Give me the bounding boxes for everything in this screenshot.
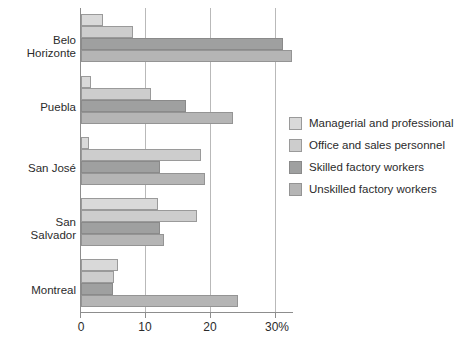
legend-item-managerial: Managerial and professional — [289, 112, 453, 134]
legend-label: Managerial and professional — [309, 117, 453, 129]
x-tick-mark-0 — [80, 313, 81, 318]
legend-item-office-sales: Office and sales personnel — [289, 134, 453, 156]
bar — [81, 26, 133, 38]
x-axis-line — [80, 312, 293, 313]
bar — [81, 112, 233, 124]
bar — [81, 88, 151, 100]
bar — [81, 149, 201, 161]
y-axis-label-san-salvador: San Salvador — [31, 216, 76, 241]
bar — [81, 76, 91, 88]
legend: Managerial and professional Office and s… — [289, 112, 453, 200]
y-axis-label-belo-horizonte: Belo Horizonte — [27, 34, 76, 59]
bar — [81, 295, 238, 307]
x-tick-label-30: 30% — [265, 320, 289, 334]
bar — [81, 161, 160, 173]
legend-swatch-icon — [289, 161, 302, 174]
x-tick-label-0: 0 — [78, 320, 85, 334]
bar-chart: Belo Horizonte Puebla San José San Salva… — [0, 0, 457, 352]
legend-item-skilled: Skilled factory workers — [289, 156, 453, 178]
legend-swatch-icon — [289, 117, 302, 130]
y-axis-label-puebla: Puebla — [40, 101, 76, 114]
bar — [81, 198, 158, 210]
bar — [81, 137, 89, 149]
bar — [81, 100, 186, 112]
x-tick-mark-20 — [210, 313, 211, 318]
y-axis-label-montreal: Montreal — [31, 284, 76, 297]
legend-swatch-icon — [289, 183, 302, 196]
plot-area: 0 10 20 30% — [80, 8, 293, 312]
legend-swatch-icon — [289, 139, 302, 152]
x-tick-label-10: 10 — [138, 320, 151, 334]
bar — [81, 271, 114, 283]
legend-label: Unskilled factory workers — [309, 183, 437, 195]
legend-label: Office and sales personnel — [309, 139, 445, 151]
bar — [81, 259, 118, 271]
legend-item-unskilled: Unskilled factory workers — [289, 178, 453, 200]
bar — [81, 173, 205, 185]
bar — [81, 38, 283, 50]
bar — [81, 222, 160, 234]
bar — [81, 283, 113, 295]
bar — [81, 14, 103, 26]
bar — [81, 234, 164, 246]
bar — [81, 50, 292, 62]
x-tick-mark-10 — [145, 313, 146, 318]
legend-label: Skilled factory workers — [309, 161, 424, 173]
y-axis-label-san-jose: San José — [28, 162, 76, 175]
bar — [81, 210, 197, 222]
x-tick-label-20: 20 — [203, 320, 216, 334]
x-tick-mark-30 — [275, 313, 276, 318]
